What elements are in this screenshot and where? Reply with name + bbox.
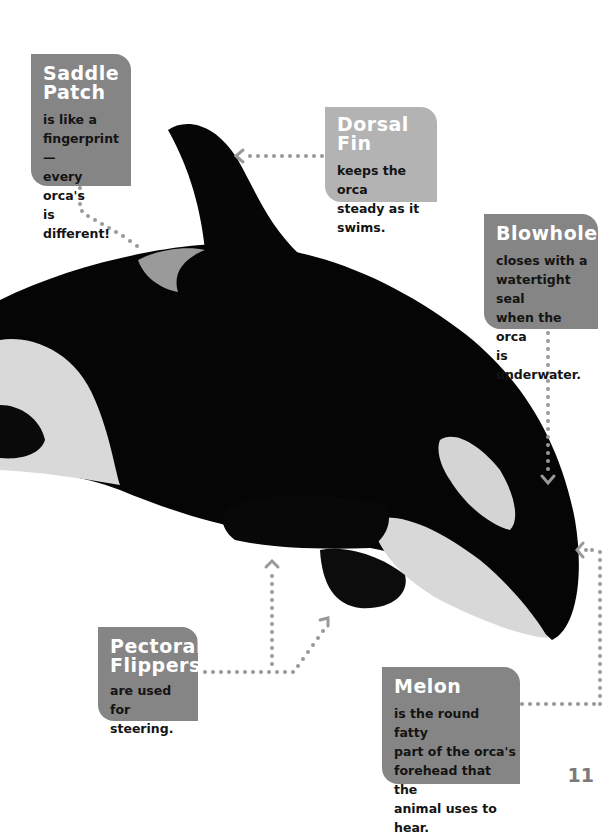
callout-dorsal-fin: Dorsal Fin keeps the orca steady as it s…	[325, 107, 437, 202]
pectoral-diag-arrow-icon	[320, 618, 328, 626]
callout-title: Blowhole	[496, 224, 594, 243]
callout-body: is like a fingerprint— every orca's is d…	[43, 110, 123, 243]
callout-body: keeps the orca steady as it swims.	[337, 161, 431, 237]
callout-title: SaddlePatch	[43, 64, 123, 102]
pectoral-up-arrow-icon	[266, 561, 278, 567]
callout-body: are used for steering.	[110, 681, 194, 738]
callout-saddle-patch: SaddlePatch is like a fingerprint— every…	[31, 54, 131, 186]
dorsal-fin-leader	[248, 154, 324, 158]
page-number: 11	[568, 764, 594, 786]
callout-body: closes with a watertight seal when the o…	[496, 251, 594, 384]
pectoral-flippers-leader	[203, 574, 325, 674]
callout-pectoral-flippers: PectoralFlippers are used for steering.	[98, 627, 198, 721]
callout-title: PectoralFlippers	[110, 637, 194, 675]
callout-blowhole: Blowhole closes with a watertight seal w…	[484, 214, 598, 329]
callout-title: Dorsal Fin	[337, 115, 431, 153]
callout-melon: Melon is the round fatty part of the orc…	[382, 667, 520, 784]
callout-body: is the round fatty part of the orca's fo…	[394, 704, 516, 836]
callout-title: Melon	[394, 677, 516, 696]
